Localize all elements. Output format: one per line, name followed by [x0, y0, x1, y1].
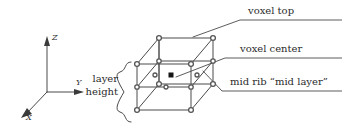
node-marker: [164, 85, 168, 89]
node-marker: [211, 59, 215, 63]
node-marker: [189, 62, 194, 67]
node-marker: [157, 59, 161, 63]
node-marker: [157, 36, 162, 41]
voxel-diagram-canvas: [0, 0, 342, 136]
node-marker: [135, 62, 140, 67]
z-axis-arrowhead: [44, 36, 50, 46]
voxel-node-markers: [135, 36, 216, 113]
node-marker: [153, 73, 157, 77]
node-marker: [135, 85, 139, 89]
callout-label-mid-rib: mid rib “mid layer”: [230, 77, 328, 88]
mid-layer-plane: [137, 61, 213, 87]
voxel-center-marker: [169, 73, 174, 78]
node-marker: [189, 108, 194, 113]
node-marker: [189, 85, 193, 89]
node-marker: [135, 108, 140, 113]
axis-label-z: Z: [52, 34, 58, 42]
diagram-root: Z Y X layer height voxel top voxel cente…: [0, 0, 342, 136]
layer-height-brace: [117, 62, 131, 122]
node-marker: [195, 73, 199, 77]
node-marker: [157, 82, 162, 87]
node-marker: [211, 36, 216, 41]
voxel-cube: [137, 38, 213, 110]
layer-height-label-line1: layer: [60, 74, 118, 85]
x-axis-line: [27, 92, 47, 113]
node-marker: [211, 82, 216, 87]
voxel-top-leader: [193, 20, 342, 37]
axis-label-x: X: [26, 114, 32, 122]
layer-height-label-line2: height: [60, 87, 118, 98]
callout-label-voxel-top: voxel top: [248, 6, 294, 17]
callout-label-voxel-center: voxel center: [240, 44, 302, 55]
